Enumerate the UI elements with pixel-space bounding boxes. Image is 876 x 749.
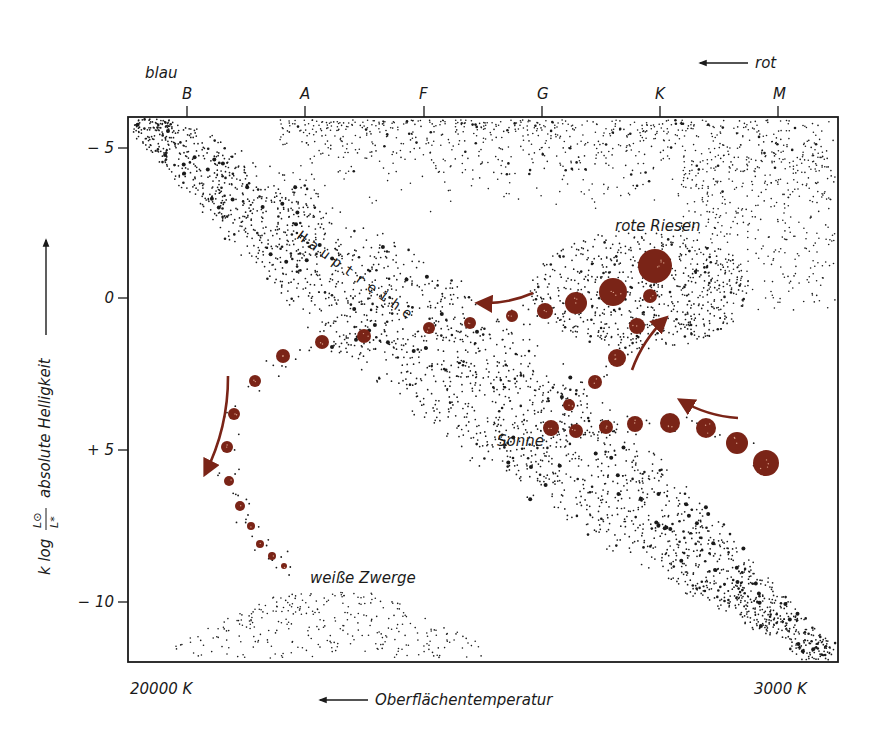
track-star xyxy=(696,418,716,438)
spectral-class-axis: BAFGKM xyxy=(182,85,786,117)
main-sequence-label: Hauptreihe xyxy=(294,227,420,325)
track-star xyxy=(315,335,329,349)
x-axis-title: Oberflächentemperatur xyxy=(375,691,553,709)
y-tick-label: 0 xyxy=(104,289,114,307)
evolution-arrow-icon xyxy=(680,400,738,418)
track-star xyxy=(599,420,613,434)
blue-label: blau xyxy=(145,64,177,82)
y-axis-title: absolute Helligkeit xyxy=(36,357,54,498)
track-star xyxy=(753,450,779,476)
track-star xyxy=(464,317,476,329)
x-axis-right-label: 3000 K xyxy=(754,680,808,698)
spectral-class-label: B xyxy=(182,85,192,103)
sun-label: Sonne xyxy=(497,432,544,450)
spectral-class-label: G xyxy=(537,85,549,103)
track-star xyxy=(276,349,290,363)
main-sequence-band xyxy=(133,118,837,660)
evolution-arrow-icon xyxy=(478,293,533,303)
track-star xyxy=(423,322,435,334)
track-star xyxy=(569,424,583,438)
white-dwarf-region xyxy=(175,592,482,659)
spectral-class-label: K xyxy=(655,85,666,103)
x-axis-left-label: 20000 K xyxy=(130,680,193,698)
track-star xyxy=(588,375,602,389)
track-star xyxy=(268,552,276,560)
y-axis-formula-numerator: L⊙ xyxy=(31,513,44,528)
track-star xyxy=(565,292,587,314)
track-star xyxy=(224,476,234,486)
y-axis-formula-prefix: k log xyxy=(36,539,54,575)
track-star xyxy=(506,310,518,322)
y-axis-label: k log L⊙ L* absolute Helligkeit xyxy=(31,240,61,575)
y-tick-label: + 5 xyxy=(87,441,114,459)
red-label: rot xyxy=(755,54,777,72)
white-dwarfs-label: weiße Zwerge xyxy=(310,569,416,587)
track-star xyxy=(221,441,233,453)
track-star xyxy=(256,540,264,548)
y-axis-formula-denominator: L* xyxy=(48,516,61,528)
track-star xyxy=(599,278,627,306)
track-star xyxy=(249,375,261,387)
red-giants-label: rote Riesen xyxy=(615,217,701,235)
track-star xyxy=(660,413,680,433)
track-star xyxy=(726,432,748,454)
spectral-class-label: F xyxy=(419,85,428,103)
plot-frame xyxy=(128,117,838,662)
hr-diagram: BAFGKM − 50+ 5− 10 blau rot k log L⊙ L* … xyxy=(0,0,876,749)
track-star xyxy=(543,420,559,436)
spectral-class-label: A xyxy=(299,85,310,103)
track-star xyxy=(638,249,672,283)
track-star xyxy=(643,289,657,303)
track-star xyxy=(235,501,245,511)
evolution-arrow-icon xyxy=(205,376,228,474)
track-star xyxy=(357,329,371,343)
y-tick-label: − 10 xyxy=(78,593,114,611)
y-axis-ticks: − 50+ 5− 10 xyxy=(78,139,128,611)
y-tick-label: − 5 xyxy=(87,139,114,157)
track-star xyxy=(563,399,575,411)
track-star xyxy=(228,408,240,420)
track-star xyxy=(281,563,287,569)
track-star xyxy=(627,416,643,432)
track-star xyxy=(537,303,553,319)
spectral-class-label: M xyxy=(773,85,786,103)
track-star xyxy=(608,349,626,367)
track-star xyxy=(247,522,255,530)
track-star xyxy=(629,318,645,334)
